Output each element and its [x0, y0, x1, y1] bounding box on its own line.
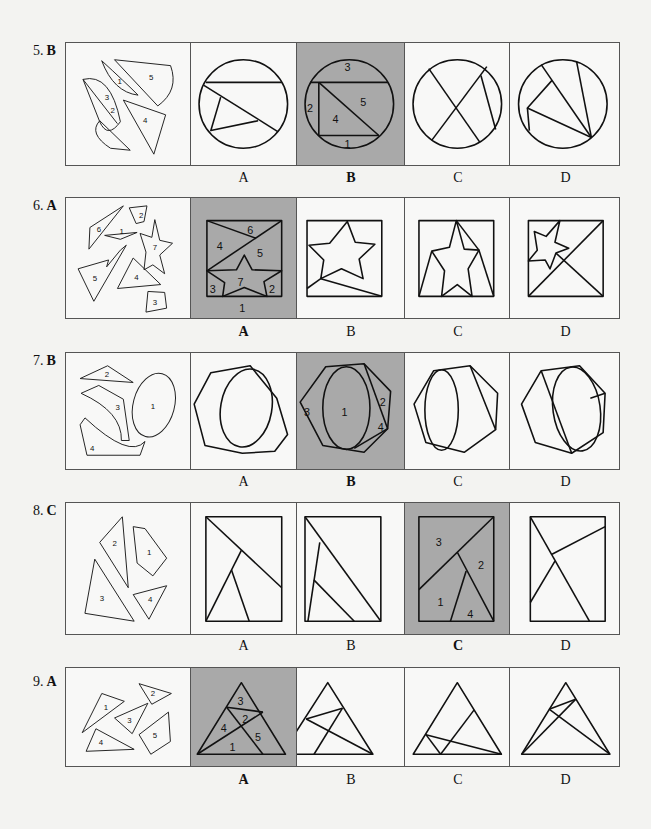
- piece-label: 5: [149, 73, 154, 82]
- piece-label: 5: [93, 274, 98, 283]
- piece-label: 1: [147, 548, 151, 557]
- region-label: 4: [216, 240, 222, 252]
- option-d-label[interactable]: D: [511, 638, 620, 654]
- piece-label: 6: [97, 225, 102, 234]
- option-a-label[interactable]: A: [190, 170, 297, 186]
- puzzle-frame: 1 2 3 4 5 3 2 4: [65, 42, 620, 166]
- pieces-cell: 2 3 1 4: [66, 353, 191, 469]
- option-d-cell[interactable]: [510, 198, 619, 318]
- puzzle-frame: 2 3 1 4 3 1 2 4: [65, 352, 620, 470]
- region-label: 1: [342, 406, 348, 418]
- option-a-figure: 6 4 5 7 3 2 1: [191, 198, 297, 318]
- region-label: 3: [209, 283, 215, 295]
- option-b-figure: 3 2 4 5 1: [297, 43, 404, 165]
- piece-label: 3: [105, 93, 110, 102]
- question-label: 9.A: [33, 674, 57, 690]
- puzzle-pieces-figure: 2 1 3 4: [66, 503, 190, 634]
- option-c-figure: [405, 198, 510, 318]
- region-label: 2: [307, 102, 313, 114]
- region-label: 3: [345, 61, 351, 73]
- option-b-label[interactable]: B: [297, 772, 405, 788]
- option-b-cell[interactable]: [297, 668, 405, 766]
- option-c-label[interactable]: C: [405, 474, 511, 490]
- pieces-cell: 1 2 3 4 5: [66, 668, 191, 766]
- option-a-figure: 3 2 4 5 1: [191, 668, 297, 766]
- option-c-cell[interactable]: [405, 43, 511, 165]
- piece-label: 7: [153, 243, 157, 252]
- option-a-label[interactable]: A: [190, 638, 297, 654]
- puzzle-frame: 1 2 3 4 5 3 2 4 5 1: [65, 667, 620, 767]
- option-d-cell[interactable]: [510, 353, 619, 469]
- piece-label: 5: [153, 731, 158, 740]
- option-b-label[interactable]: B: [297, 324, 405, 340]
- option-a-cell[interactable]: [191, 353, 298, 469]
- option-c-label[interactable]: C: [405, 638, 511, 654]
- option-d-figure: [510, 353, 619, 469]
- piece-label: 4: [90, 444, 95, 453]
- region-label: 1: [345, 138, 351, 150]
- option-a-figure: [191, 503, 297, 634]
- piece-label: 3: [153, 298, 158, 307]
- pieces-cell: 1 2 3 4 5: [66, 43, 191, 165]
- option-c-cell[interactable]: [405, 353, 511, 469]
- region-label: 2: [268, 283, 274, 295]
- option-b-label[interactable]: B: [297, 638, 405, 654]
- option-c-cell[interactable]: 3 2 1 4: [405, 503, 511, 634]
- option-c-label[interactable]: C: [405, 324, 511, 340]
- option-d-cell[interactable]: [510, 503, 619, 634]
- option-d-label[interactable]: D: [511, 772, 620, 788]
- option-b-cell[interactable]: [297, 198, 405, 318]
- option-a-label[interactable]: A: [190, 474, 297, 490]
- piece-label: 4: [148, 595, 153, 604]
- answer-key: C: [47, 503, 57, 518]
- option-d-label[interactable]: D: [511, 170, 620, 186]
- option-a-figure: [191, 43, 297, 165]
- region-label: 2: [478, 559, 484, 571]
- option-a-cell[interactable]: 3 2 4 5 1: [191, 668, 298, 766]
- option-b-cell[interactable]: 3 2 4 5 1: [297, 43, 405, 165]
- option-c-cell[interactable]: [405, 198, 511, 318]
- question-number: 8.: [33, 503, 44, 518]
- option-b-figure: [297, 198, 404, 318]
- question-number: 5.: [33, 43, 44, 58]
- option-d-label[interactable]: D: [511, 474, 620, 490]
- option-a-cell[interactable]: 6 4 5 7 3 2 1: [191, 198, 298, 318]
- region-label: 6: [247, 224, 253, 236]
- option-d-figure: [510, 503, 619, 634]
- option-b-label[interactable]: B: [297, 170, 405, 186]
- answer-key: B: [47, 43, 56, 58]
- puzzle-frame: 2 1 3 4: [65, 502, 620, 635]
- puzzle-pieces-figure: 2 3 1 4: [66, 353, 190, 469]
- option-d-figure: [510, 43, 619, 165]
- option-b-figure: [297, 503, 404, 634]
- option-labels: A B C D: [65, 170, 620, 186]
- region-label: 1: [437, 596, 443, 608]
- puzzle-frame: 6 2 1 7 5 4 3 6 4 5 7 3 2 1: [65, 197, 620, 319]
- region-label: 4: [333, 113, 339, 125]
- option-c-cell[interactable]: [405, 668, 511, 766]
- option-a-label[interactable]: A: [190, 324, 297, 340]
- option-b-label[interactable]: B: [297, 474, 405, 490]
- option-c-figure: 3 2 1 4: [405, 503, 510, 634]
- option-b-cell[interactable]: [297, 503, 405, 634]
- option-a-cell[interactable]: [191, 503, 298, 634]
- piece-label: 2: [113, 539, 117, 548]
- option-a-label[interactable]: A: [190, 772, 297, 788]
- answer-key: A: [47, 198, 57, 213]
- piece-label: 1: [104, 703, 108, 712]
- option-b-figure: [297, 668, 404, 766]
- pieces-cell: 2 1 3 4: [66, 503, 191, 634]
- option-c-label[interactable]: C: [405, 772, 511, 788]
- option-b-cell[interactable]: 3 1 2 4: [297, 353, 405, 469]
- region-label: 2: [380, 396, 386, 408]
- option-c-label[interactable]: C: [405, 170, 511, 186]
- region-label: 7: [237, 276, 243, 288]
- puzzle-pieces-figure: 1 2 3 4 5: [66, 668, 190, 766]
- option-d-cell[interactable]: [510, 668, 619, 766]
- option-a-cell[interactable]: [191, 43, 298, 165]
- option-labels: A B C D: [65, 638, 620, 654]
- question-number: 9.: [33, 674, 44, 689]
- puzzle-pieces-figure: 6 2 1 7 5 4 3: [66, 198, 190, 318]
- option-d-cell[interactable]: [510, 43, 619, 165]
- option-d-label[interactable]: D: [511, 324, 620, 340]
